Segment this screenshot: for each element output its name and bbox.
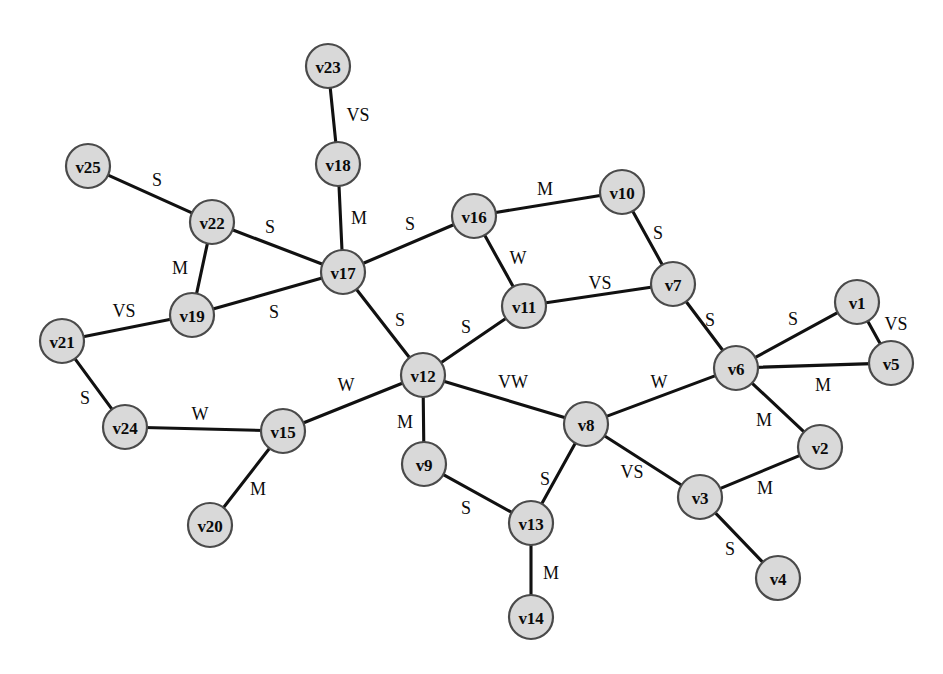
edge-weight-label-v22-v17: S [265,217,275,237]
node-label-v18: v18 [326,156,351,175]
graph-node-v8[interactable]: v8 [564,402,608,446]
graph-node-v4[interactable]: v4 [756,556,800,600]
node-label-v22: v22 [200,214,225,233]
graph-node-v1[interactable]: v1 [835,280,879,324]
node-label-v8: v8 [578,416,595,435]
edge-weight-label-v24-v15: W [192,404,209,424]
graph-edge-v9-v13 [441,473,515,514]
node-label-v25: v25 [76,158,101,177]
edge-weight-label-v6-v2: M [756,410,772,430]
edge-weight-label-v21-v24: S [80,388,90,408]
graph-node-v25[interactable]: v25 [66,144,110,188]
graph-node-v22[interactable]: v22 [190,200,234,244]
graph-diagram-canvas: VSMSMSSVSSWMWSSMWSVSSSSVSMMWMSVSVWSMSM v… [0,0,943,674]
graph-node-v12[interactable]: v12 [401,353,445,397]
graph-node-v7[interactable]: v7 [651,262,695,306]
node-label-v11: v11 [512,298,536,317]
graph-edge-v3-v4 [713,511,765,565]
graph-edge-v15-v20 [222,446,272,510]
graph-node-v24[interactable]: v24 [103,405,147,449]
node-label-v1: v1 [849,294,866,313]
graph-edge-v12-v9 [423,394,424,445]
graph-node-v18[interactable]: v18 [316,142,360,186]
node-label-v24: v24 [113,419,139,438]
graph-edge-v25-v22 [105,174,194,214]
edge-weight-label-v19-v17: S [269,302,279,322]
edge-weight-label-v23-v18: VS [346,105,369,125]
graph-node-v13[interactable]: v13 [509,501,553,545]
edge-weight-label-v8-v13: S [540,469,550,489]
graph-edge-v18-v17 [339,183,342,253]
node-label-v2: v2 [812,439,829,458]
edge-weight-label-v6-v1: S [788,309,798,329]
graph-node-v9[interactable]: v9 [402,442,446,486]
edge-weight-label-v16-v10: M [537,179,553,199]
graph-edge-v22-v19 [196,241,208,297]
graph-node-v19[interactable]: v19 [170,293,214,337]
graph-node-v15[interactable]: v15 [261,409,305,453]
graph-edge-v21-v19 [81,319,174,338]
node-label-v15: v15 [271,423,296,442]
graph-edge-v23-v18 [330,85,336,145]
graph-node-v5[interactable]: v5 [869,341,913,385]
edge-weight-label-v16-v11: W [510,248,527,268]
edge-weight-label-v17-v12: S [395,310,405,330]
edge-weight-label-v12-v9: M [397,412,413,432]
edge-weight-label-v6-v8: W [651,372,668,392]
node-label-v6: v6 [728,360,745,379]
edge-weight-label-v25-v22: S [152,170,162,190]
edge-weight-label-v15-v20: M [250,479,266,499]
node-label-v14: v14 [519,609,545,628]
edge-weight-label-v15-v12: W [338,375,355,395]
edge-weight-label-v11-v12: S [461,317,471,337]
edge-weight-label-v13-v14: M [543,563,559,583]
edge-weight-label-v7-v6: S [705,310,715,330]
node-label-v12: v12 [411,367,436,386]
node-label-v19: v19 [180,307,205,326]
graph-node-v21[interactable]: v21 [40,319,84,363]
edge-weight-label-v18-v17: M [351,208,367,228]
graph-node-v2[interactable]: v2 [798,425,842,469]
graph-edge-v19-v17 [210,277,324,310]
graph-node-v11[interactable]: v11 [502,284,546,328]
graph-node-v17[interactable]: v17 [321,250,365,294]
node-label-v7: v7 [665,276,682,295]
node-label-v23: v23 [316,58,341,77]
edge-weight-label-v10-v7: S [653,223,663,243]
node-label-v3: v3 [692,489,709,508]
edge-weight-label-v8-v12: VW [498,372,528,392]
graph-node-v16[interactable]: v16 [452,194,496,238]
graph-node-v14[interactable]: v14 [509,595,553,639]
graph-edge-v22-v17 [230,229,326,265]
edge-weight-label-v22-v19: M [172,258,188,278]
graph-node-v6[interactable]: v6 [714,346,758,390]
node-label-v9: v9 [416,456,433,475]
graph-node-v3[interactable]: v3 [678,475,722,519]
edge-weight-label-v3-v4: S [725,539,735,559]
graph-edge-v1-v5 [866,319,882,347]
node-label-v16: v16 [462,208,487,227]
edge-weight-label-v6-v5: M [815,375,831,395]
graph-edge-v11-v12 [439,317,509,365]
node-label-v13: v13 [519,515,544,534]
edge-weight-label-v1-v5: VS [884,314,907,334]
edge-weight-label-v11-v7: VS [588,273,611,293]
node-label-v21: v21 [50,333,75,352]
node-label-v17: v17 [331,264,357,283]
node-label-v10: v10 [610,184,635,203]
node-label-v20: v20 [198,517,223,536]
graph-node-v20[interactable]: v20 [188,503,232,547]
edge-weight-label-v17-v16: S [405,214,415,234]
graph-svg-root: VSMSMSSVSSWMWSSMWSVSSSSVSMMWMSVSVWSMSM v… [0,0,943,674]
graph-edge-v24-v15 [144,427,264,430]
graph-node-v10[interactable]: v10 [600,170,644,214]
edge-weight-label-v21-v19: VS [112,301,135,321]
edge-weight-label-v2-v3: M [757,478,773,498]
graph-node-v23[interactable]: v23 [306,44,350,88]
edge-weight-label-v8-v3: VS [620,462,643,482]
graph-edge-v6-v5 [755,364,872,368]
node-label-v4: v4 [770,570,787,589]
edge-weight-label-v9-v13: S [461,498,471,518]
node-label-v5: v5 [883,355,900,374]
